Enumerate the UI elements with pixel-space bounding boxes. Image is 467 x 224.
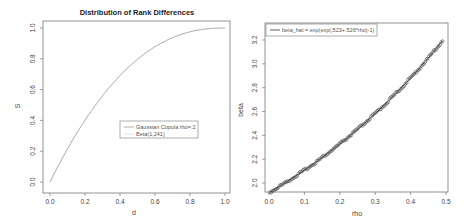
left-series-gaussian-copula — [50, 28, 225, 182]
x-tick-label: 0.2 — [80, 198, 89, 205]
y-tick-label: 3.0 — [251, 59, 258, 68]
x-tick-label: 0.8 — [185, 198, 194, 205]
right-plot: 0.00.10.20.30.40.5 2.02.22.42.62.83.03.2… — [237, 23, 451, 217]
y-tick-label: 0.0 — [29, 177, 36, 186]
left-y-label: S — [14, 103, 21, 108]
left-y-axis: 0.00.20.40.60.81.0 — [29, 23, 43, 186]
left-series-beta — [50, 28, 225, 182]
left-x-label: d — [132, 209, 136, 216]
y-tick-label: 3.2 — [251, 35, 258, 44]
x-tick-label: 0.5 — [441, 198, 450, 205]
y-tick-label: 2.6 — [251, 107, 258, 116]
y-tick-label: 2.0 — [251, 178, 258, 187]
right-series-points — [269, 40, 444, 194]
left-plot-frame — [43, 21, 230, 193]
y-tick-label: 2.8 — [251, 83, 258, 92]
x-tick-label: 0.4 — [406, 198, 415, 205]
x-tick-label: 0.0 — [45, 198, 54, 205]
chart-canvas: Distribution of Rank Differences 0.00.20… — [0, 0, 467, 224]
x-tick-label: 0.3 — [371, 198, 380, 205]
left-legend: Gaussian Copula rho=.2 Beta(1,241) — [120, 121, 198, 138]
left-plot: Distribution of Rank Differences 0.00.20… — [14, 8, 230, 216]
right-series-fit — [270, 41, 442, 193]
right-x-axis: 0.00.10.20.30.40.5 — [264, 192, 450, 205]
right-x-label: rho — [352, 210, 362, 217]
y-tick-label: 0.8 — [29, 54, 36, 63]
right-y-label: beta — [237, 103, 244, 117]
x-tick-label: 0.4 — [115, 198, 124, 205]
x-tick-label: 0.2 — [335, 198, 344, 205]
y-tick-label: 0.2 — [29, 146, 36, 155]
left-x-axis: 0.00.20.40.60.81.0 — [45, 193, 229, 205]
y-tick-label: 0.4 — [29, 116, 36, 125]
x-tick-label: 0.6 — [150, 198, 159, 205]
left-plot-title: Distribution of Rank Differences — [80, 8, 195, 17]
y-tick-label: 2.4 — [251, 130, 258, 139]
right-legend: beta_hat = exp(exp(.523+.526*rho)-1) — [266, 24, 377, 36]
legend-entry-fit: beta_hat = exp(exp(.523+.526*rho)-1) — [282, 27, 375, 33]
x-tick-label: 1.0 — [220, 198, 229, 205]
legend-entry-beta: Beta(1,241) — [136, 131, 165, 137]
right-y-axis: 2.02.22.42.62.83.03.2 — [251, 35, 265, 187]
y-tick-label: 2.2 — [251, 154, 258, 163]
y-tick-label: 0.6 — [29, 85, 36, 94]
legend-entry-gaussian: Gaussian Copula rho=.2 — [136, 124, 195, 130]
y-tick-label: 1.0 — [29, 23, 36, 32]
right-plot-frame — [265, 23, 448, 192]
x-tick-label: 0.0 — [264, 198, 273, 205]
x-tick-label: 0.1 — [300, 198, 309, 205]
